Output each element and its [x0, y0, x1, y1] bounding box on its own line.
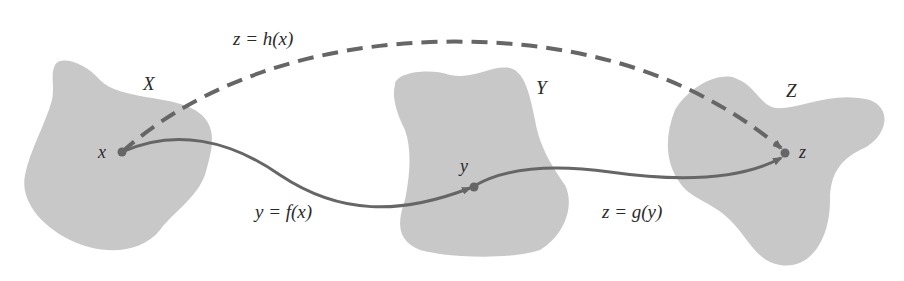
mapping-g-label: z = g(y) [601, 201, 662, 223]
mapping-f-label: y = f(x) [253, 201, 312, 223]
point-y-label: y [458, 156, 468, 176]
set-z-region [668, 77, 885, 266]
function-composition-diagram: X Y Z x y z z = h(x) y = f(x) z = g(y) [0, 0, 904, 281]
point-y [470, 183, 479, 192]
point-z [781, 149, 790, 158]
set-y-label: Y [536, 77, 549, 98]
mapping-h-label: z = h(x) [232, 28, 293, 50]
set-z-label: Z [786, 80, 797, 101]
set-x-label: X [142, 73, 156, 94]
point-z-label: z [798, 142, 806, 162]
point-x [118, 148, 127, 157]
point-x-label: x [97, 142, 106, 162]
set-x-region [24, 60, 212, 250]
